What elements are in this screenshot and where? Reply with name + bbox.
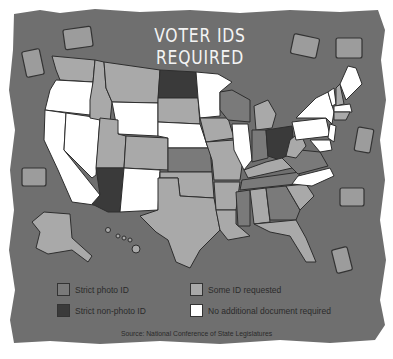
- legend-item-strict-nonphoto: Strict non-photo ID: [57, 304, 146, 317]
- legend-swatch: [57, 283, 70, 296]
- source-note: Source: National Conference of State Leg…: [29, 329, 363, 338]
- legend-item-none: No additional document required: [190, 304, 331, 317]
- legend-label: No additional document required: [208, 306, 331, 316]
- legend-swatch: [190, 283, 203, 296]
- legend-label: Strict photo ID: [75, 285, 129, 295]
- legend: Strict photo ID Some ID requested Strict…: [0, 0, 393, 359]
- legend-item-strict-photo: Strict photo ID: [57, 283, 129, 296]
- legend-swatch: [57, 304, 70, 317]
- legend-item-some-id: Some ID requested: [190, 283, 281, 296]
- legend-swatch: [190, 304, 203, 317]
- legend-label: Strict non-photo ID: [75, 306, 146, 316]
- legend-label: Some ID requested: [208, 285, 281, 295]
